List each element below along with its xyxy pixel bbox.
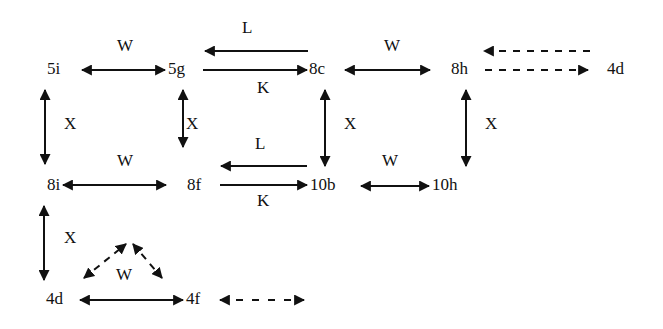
edge-label-K-mid: K [257, 192, 269, 209]
edge-label-X-5i-8i: X [64, 115, 76, 132]
diagram-canvas [0, 0, 663, 329]
node-4d-top: 4d [607, 60, 624, 77]
edge-label-X-5g-8f: X [186, 115, 198, 132]
node-8i: 8i [47, 176, 60, 193]
node-8c: 8c [309, 60, 325, 77]
node-4f: 4f [186, 290, 200, 307]
edge-label-L-mid: L [255, 135, 265, 152]
node-10b: 10b [310, 176, 336, 193]
edge-label-X-8i-4d: X [64, 229, 76, 246]
edge-label-W-8c-8h: W [384, 37, 400, 54]
node-8f: 8f [187, 176, 201, 193]
edge-label-X-8c-10b: X [344, 115, 356, 132]
edge-4f-4d-dashed-arc [133, 244, 162, 278]
edge-label-K-top: K [257, 79, 269, 96]
edge-label-L-top: L [242, 19, 252, 36]
edge-label-W-8i-8f: W [117, 152, 133, 169]
node-4d: 4d [46, 290, 63, 307]
edge-label-W-4d-4f: W [116, 266, 132, 283]
edge-label-W-10b-10h: W [382, 152, 398, 169]
node-10h: 10h [432, 176, 458, 193]
node-5i: 5i [47, 60, 60, 77]
edge-label-X-8h-10h: X [485, 115, 497, 132]
node-8h: 8h [451, 60, 468, 77]
node-5g: 5g [168, 60, 185, 77]
edge-label-W-5i-5g: W [117, 37, 133, 54]
